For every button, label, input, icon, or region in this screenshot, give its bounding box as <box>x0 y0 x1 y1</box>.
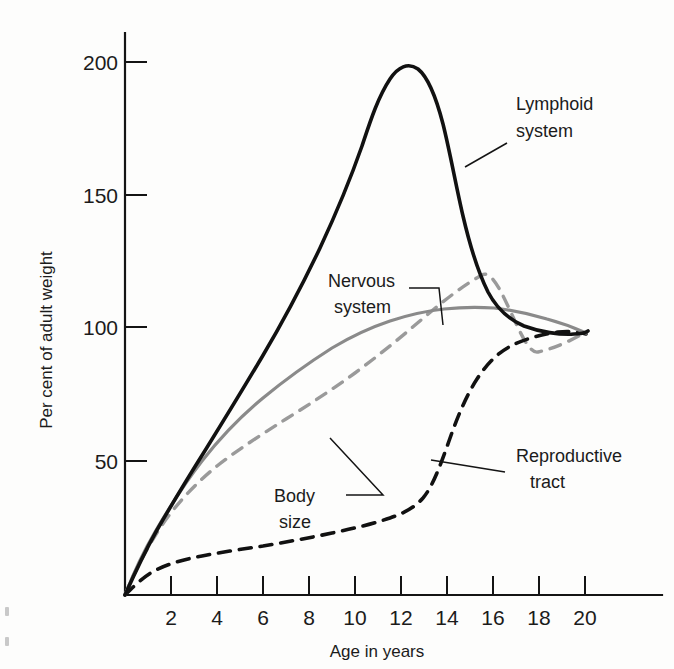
label-lymphoid-line1: Lymphoid <box>516 94 593 114</box>
label-body-size-line1: Body <box>274 486 315 506</box>
y-tick-label-150: 150 <box>83 184 118 207</box>
y-axis-title: Per cent of adult weight <box>37 251 56 429</box>
series-curves <box>125 66 588 595</box>
growth-curves-figure: 200 150 100 50 2 4 6 8 10 12 14 16 18 20… <box>0 0 674 669</box>
x-tick-label-12: 12 <box>389 606 412 629</box>
label-lymphoid-line2: system <box>516 121 573 141</box>
x-tick-label-16: 16 <box>481 606 504 629</box>
x-tick-label-18: 18 <box>527 606 550 629</box>
x-tick-label-6: 6 <box>257 606 269 629</box>
y-tick-label-200: 200 <box>83 51 118 74</box>
x-axis-title: Age in years <box>330 642 425 661</box>
x-tick-label-14: 14 <box>435 606 459 629</box>
label-nervous-line1: Nervous <box>328 271 395 291</box>
label-reproductive-line1: Reproductive <box>516 446 622 466</box>
axis-group <box>125 33 662 595</box>
y-tick-label-100: 100 <box>83 316 118 339</box>
y-tick-marks <box>125 62 147 461</box>
leader-body-size <box>330 438 383 495</box>
curve-lymphoid-system <box>125 66 588 595</box>
margin-artifacts <box>5 607 9 646</box>
leader-reproductive <box>431 460 505 472</box>
annotation-leaders <box>330 143 507 495</box>
leader-nervous <box>409 288 443 325</box>
x-tick-label-8: 8 <box>303 606 315 629</box>
series-labels: Lymphoid system Nervous system Body size… <box>274 94 622 532</box>
x-tick-labels: 2 4 6 8 10 12 14 16 18 20 <box>165 606 597 629</box>
x-tick-label-20: 20 <box>573 606 596 629</box>
label-body-size-line2: size <box>279 512 311 532</box>
label-reproductive-line2: tract <box>530 472 565 492</box>
x-tick-label-2: 2 <box>165 606 177 629</box>
x-tick-label-4: 4 <box>211 606 223 629</box>
chart-canvas: 200 150 100 50 2 4 6 8 10 12 14 16 18 20… <box>0 0 674 669</box>
y-tick-label-50: 50 <box>95 450 118 473</box>
y-tick-labels: 200 150 100 50 <box>83 51 118 473</box>
leader-lymphoid <box>465 143 507 167</box>
x-tick-marks <box>171 576 585 595</box>
x-tick-label-10: 10 <box>343 606 366 629</box>
label-nervous-line2: system <box>334 297 391 317</box>
